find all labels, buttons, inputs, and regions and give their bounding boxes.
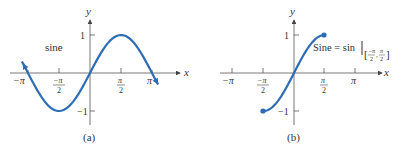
- interval-pos-den: 2: [380, 56, 383, 62]
- x-tick-pi: π: [351, 75, 357, 86]
- x-tick-neg-half-pi-den: 2: [261, 86, 265, 95]
- restricted-sine-annotation: Sine = sin: [313, 42, 356, 53]
- x-axis-label: x: [183, 66, 189, 78]
- y-tick-1: 1: [80, 30, 85, 41]
- panel-b: x y 1 −1 −π −π 2 π 2 π Sine = sin [ −π 2…: [220, 5, 390, 144]
- caption-b: (b): [287, 131, 300, 144]
- sine-annotation: sine: [45, 41, 63, 53]
- interval-bracket-right: ]: [386, 48, 390, 60]
- x-tick-half-pi-num: π: [118, 76, 123, 85]
- interval-pos-num: π: [380, 48, 384, 54]
- caption-a: (a): [83, 131, 96, 144]
- endpoint-dot-right: [321, 32, 326, 37]
- x-tick-half-pi-den: 2: [119, 86, 123, 95]
- x-tick-neg-half-pi-num: −π: [53, 76, 63, 85]
- x-tick-pi: π: [147, 75, 153, 86]
- figure: x y 1 −1 −π −π 2 π 2 π sine (a) x y 1 −1…: [0, 0, 401, 148]
- x-tick-neg-half-pi-den: 2: [57, 86, 61, 95]
- x-tick-neg-pi: −π: [222, 75, 235, 86]
- x-tick-half-pi-num: π: [321, 76, 326, 85]
- interval-neg-num: −π: [368, 48, 376, 54]
- y-tick-1: 1: [284, 30, 289, 41]
- y-tick-neg1: −1: [77, 106, 88, 117]
- x-axis-label: x: [383, 66, 389, 78]
- interval-neg-den: 2: [370, 56, 373, 62]
- x-tick-half-pi-den: 2: [322, 86, 326, 95]
- endpoint-dot-left: [260, 108, 265, 113]
- y-axis-label: y: [85, 5, 91, 17]
- x-tick-neg-half-pi-num: −π: [257, 76, 267, 85]
- interval-comma: ,: [376, 51, 378, 59]
- y-axis-label: y: [289, 5, 295, 17]
- y-tick-neg1: −1: [278, 106, 289, 117]
- x-tick-neg-pi: −π: [13, 75, 26, 86]
- panel-a: x y 1 −1 −π −π 2 π 2 π sine (a): [10, 5, 189, 144]
